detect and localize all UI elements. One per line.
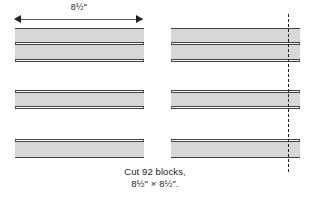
dimension-line: [15, 19, 143, 20]
strip-1: [15, 28, 144, 43]
strip-2: [171, 44, 300, 60]
strip-4: [15, 92, 144, 107]
strip-6: [171, 141, 300, 158]
right-arrowhead-icon: [136, 15, 143, 23]
strip-4: [171, 92, 300, 107]
right-block: [171, 28, 300, 158]
strip-2: [15, 44, 144, 60]
left-block: [15, 28, 144, 158]
strip-6: [15, 141, 144, 158]
caption-line-2: 8½" × 8½".: [0, 178, 310, 190]
strip-5: [15, 108, 144, 140]
caption-line-1: Cut 92 blocks,: [0, 166, 310, 178]
dimension-label: 8½": [15, 1, 143, 13]
strip-3: [171, 61, 300, 91]
strip-5: [171, 108, 300, 140]
strip-1: [171, 28, 300, 43]
strip-3: [15, 61, 144, 91]
figure-caption: Cut 92 blocks, 8½" × 8½".: [0, 166, 310, 189]
left-arrowhead-icon: [14, 15, 21, 23]
dashed-cut-line: [288, 14, 289, 172]
cutting-diagram-figure: 8½" Cut 92 blocks, 8½" × 8½".: [0, 0, 310, 203]
